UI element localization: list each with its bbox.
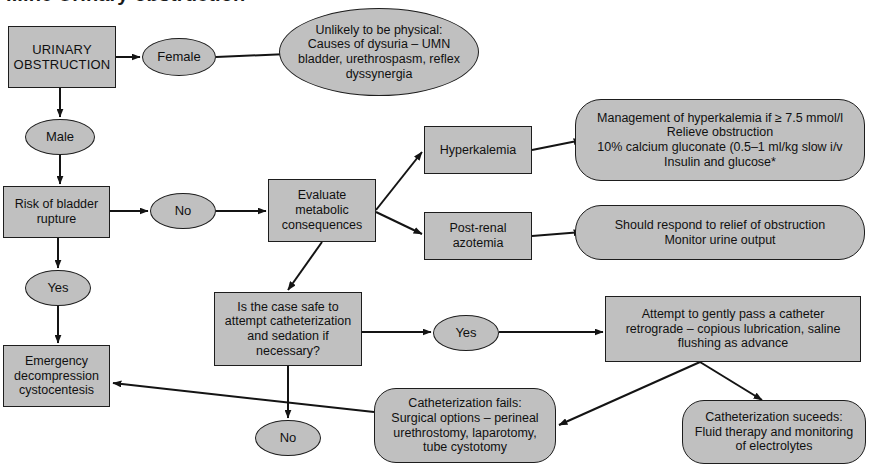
node-evaluate-metabolic[interactable]: Evaluate metabolic consequences — [268, 179, 376, 242]
node-urinary-obstruction[interactable]: URINARY OBSTRUCTION — [8, 26, 116, 88]
node-risk-of-bladder-rupture[interactable]: Risk of bladder rupture — [3, 186, 110, 238]
edge-attempt-to-succeeds — [700, 362, 762, 400]
edge-fails-to-emergency — [113, 383, 374, 412]
node-no-catheterize[interactable]: No — [255, 420, 321, 456]
node-hyperkalemia[interactable]: Hyperkalemia — [424, 126, 532, 174]
edge-female-to-unlikely — [216, 54, 288, 57]
flowchart-canvas: ...ine Urinary obstruction — [0, 0, 870, 468]
edge-evaluate-to-hyperkalemia — [376, 152, 422, 210]
node-is-case-safe[interactable]: Is the case safe to attempt catheterizat… — [214, 292, 362, 366]
node-yes-catheterize[interactable]: Yes — [433, 315, 499, 351]
node-emergency-decompression[interactable]: Emergency decompression cystocentesis — [3, 345, 110, 407]
node-yes-rupture[interactable]: Yes — [25, 270, 91, 306]
edge-attempt-to-fails — [559, 362, 700, 425]
node-attempt-catheter[interactable]: Attempt to gently pass a catheter retrog… — [605, 296, 861, 362]
node-no-rupture[interactable]: No — [150, 193, 216, 229]
node-catheterization-fails[interactable]: Catheterization fails: Surgical options … — [374, 388, 556, 463]
edge-evaluate-to-azotemia — [376, 212, 422, 234]
node-catheterization-succeeds[interactable]: Catheterization suceeds: Fluid therapy a… — [682, 400, 866, 464]
node-hyperkalemia-management[interactable]: Management of hyperkalemia if ≥ 7.5 mmol… — [575, 99, 865, 181]
page-title: ...ine Urinary obstruction — [6, 0, 245, 6]
node-post-renal-azotemia[interactable]: Post-renal azotemia — [424, 212, 532, 260]
node-female[interactable]: Female — [142, 38, 216, 76]
node-should-respond[interactable]: Should respond to relief of obstruction … — [575, 205, 865, 260]
edge-evaluate-to-is-case-safe — [288, 242, 322, 290]
node-unlikely-physical[interactable]: Unlikely to be physical: Causes of dysur… — [279, 8, 479, 96]
node-male[interactable]: Male — [25, 119, 95, 155]
